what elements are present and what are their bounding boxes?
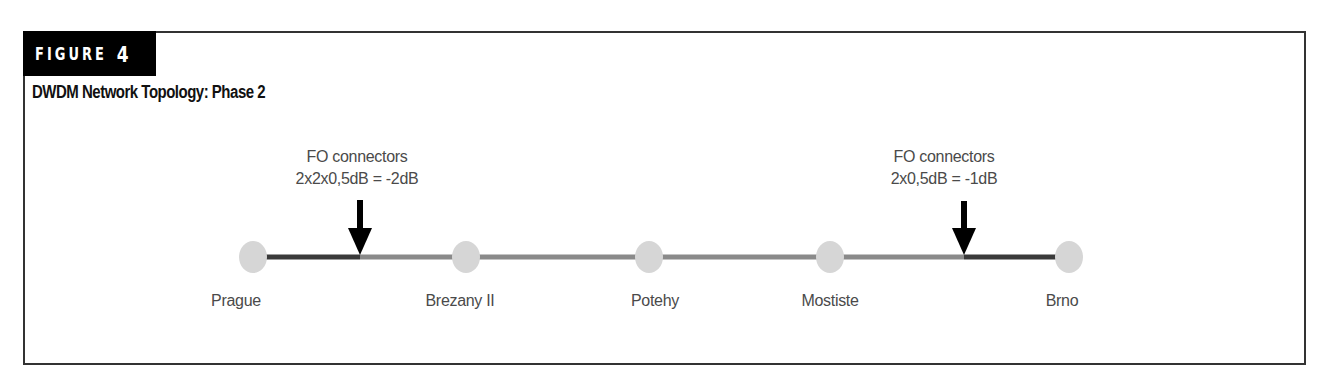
node-brezany bbox=[452, 241, 480, 273]
node-prague bbox=[239, 241, 267, 273]
node-label-prague: Prague bbox=[211, 292, 261, 310]
annotation-right: FO connectors 2x0,5dB = -1dB bbox=[891, 146, 998, 190]
annotation-right-line2: 2x0,5dB = -1dB bbox=[891, 168, 998, 190]
node-label-potehy: Potehy bbox=[631, 292, 679, 310]
node-label-brezany: Brezany II bbox=[425, 292, 494, 310]
node-label-mostiste: Mostiste bbox=[801, 292, 858, 310]
arrow-down-icon-left bbox=[348, 200, 372, 255]
topology-diagram bbox=[0, 0, 1331, 382]
annotation-right-line1: FO connectors bbox=[891, 146, 998, 168]
node-brno bbox=[1055, 241, 1083, 273]
node-potehy bbox=[635, 241, 663, 273]
annotation-left-line2: 2x2x0,5dB = -2dB bbox=[296, 168, 419, 190]
annotation-left-line1: FO connectors bbox=[296, 146, 419, 168]
node-mostiste bbox=[816, 241, 844, 273]
node-label-brno: Brno bbox=[1046, 292, 1079, 310]
arrow-down-icon-right bbox=[952, 201, 976, 255]
annotation-left: FO connectors 2x2x0,5dB = -2dB bbox=[296, 146, 419, 190]
